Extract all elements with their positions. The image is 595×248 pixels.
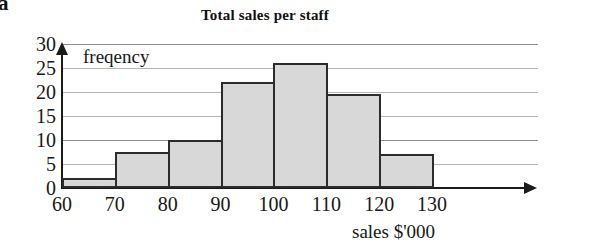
x-tick-110: 110 xyxy=(296,194,356,214)
x-tick-130: 130 xyxy=(402,194,462,214)
histogram-figure: a Total sales per staff 30 25 20 15 10 5… xyxy=(0,0,595,248)
bar-60-70 xyxy=(62,178,117,188)
bar-100-110 xyxy=(273,63,328,188)
x-tick-90: 90 xyxy=(191,194,251,214)
x-tick-60: 60 xyxy=(32,194,92,214)
y-tick-25: 25 xyxy=(14,58,56,78)
x-axis-label: sales $'000 xyxy=(352,222,435,242)
bar-110-120 xyxy=(326,94,381,188)
y-tick-10: 10 xyxy=(14,130,56,150)
y-tick-5: 5 xyxy=(14,154,56,174)
x-axis-arrow-icon xyxy=(524,182,537,194)
y-tick-20: 20 xyxy=(14,82,56,102)
x-tick-80: 80 xyxy=(138,194,198,214)
y-axis-label: freqency xyxy=(83,47,149,67)
x-tick-70: 70 xyxy=(85,194,145,214)
bar-70-80 xyxy=(115,152,170,188)
bar-120-130 xyxy=(379,154,434,188)
y-tick-15: 15 xyxy=(14,106,56,126)
chart-title: Total sales per staff xyxy=(0,6,530,24)
bar-80-90 xyxy=(168,140,223,188)
y-tick-30: 30 xyxy=(14,34,56,54)
x-tick-120: 120 xyxy=(349,194,409,214)
bar-90-100 xyxy=(221,82,276,188)
x-tick-100: 100 xyxy=(243,194,303,214)
